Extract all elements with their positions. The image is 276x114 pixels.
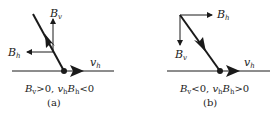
panel-a: Bv Bh vh Bv>0, vhBh<0 (a) — [7, 7, 114, 108]
vh-label: vh — [90, 56, 101, 70]
condition-label: Bv>0, vhBh<0 — [24, 83, 94, 96]
charge-dot — [61, 68, 67, 74]
bh-label: Bh — [216, 8, 230, 22]
vh-label: vh — [244, 56, 255, 70]
charge-dot — [217, 68, 223, 74]
bv-label: Bv — [49, 7, 62, 21]
field-line-arrowhead-icon — [194, 37, 206, 52]
panel-b: Bh Bv vh Bv<0, vhBh>0 (b) — [167, 8, 270, 108]
caption: (b) — [203, 97, 217, 108]
caption: (a) — [47, 97, 61, 108]
bv-label: Bv — [174, 48, 187, 62]
diagram-canvas: Bv Bh vh Bv>0, vhBh<0 (a) Bh Bv vh Bv<0,… — [0, 0, 276, 114]
condition-label: Bv<0, vhBh>0 — [179, 83, 249, 96]
bh-label: Bh — [7, 46, 21, 60]
